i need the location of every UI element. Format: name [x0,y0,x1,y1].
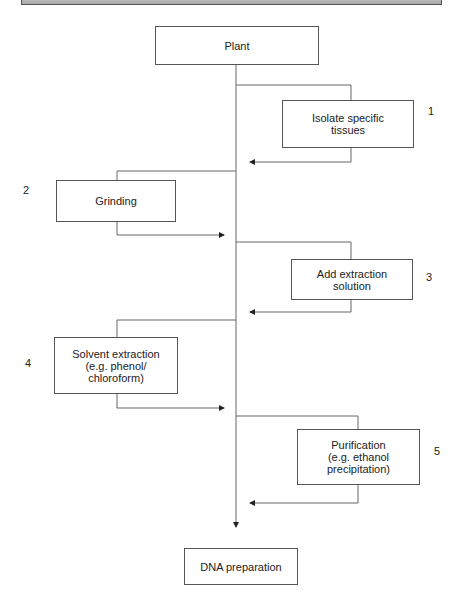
flow-connectors [0,0,462,604]
step-3-number: 3 [426,271,432,283]
step-3-box: Add extraction solution [291,259,413,300]
step-4-box: Solvent extraction (e.g. phenol/ chlorof… [54,337,178,394]
step-5-number: 5 [434,445,440,457]
step-4-number: 4 [25,357,31,369]
step-2-number: 2 [23,184,29,196]
end-box-dna-preparation: DNA preparation [184,548,298,585]
step-1-box: Isolate specific tissues [282,100,414,148]
step-2-box: Grinding [56,180,176,222]
step-1-number: 1 [428,105,434,117]
step-5-box: Purification (e.g. ethanol precipitation… [297,429,420,485]
start-box-plant: Plant [155,26,319,65]
